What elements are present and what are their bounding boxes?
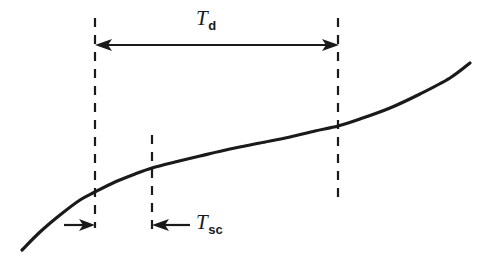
dashed-guide-lines xyxy=(95,18,338,232)
label-tsc-base: T xyxy=(196,210,208,234)
tsc-left-arrow xyxy=(64,219,95,231)
label-tsc: Tsc xyxy=(196,212,223,233)
tsc-right-arrow xyxy=(152,219,190,231)
figure-container: Td Tsc xyxy=(0,0,491,258)
response-curve xyxy=(22,63,470,250)
label-td-base: T xyxy=(196,6,208,30)
curve-group xyxy=(22,63,470,250)
label-td-subscript: d xyxy=(208,18,216,33)
label-tsc-subscript: sc xyxy=(208,222,222,237)
label-td: Td xyxy=(196,8,216,29)
td-dimension-arrow xyxy=(95,39,339,51)
diagram-canvas xyxy=(0,0,491,258)
